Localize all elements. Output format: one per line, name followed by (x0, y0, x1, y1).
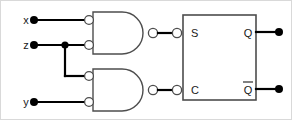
block-port-label-s: S (191, 27, 198, 39)
logic-circuit-svg: x z y (1, 1, 292, 120)
gate-top-input-bubble-x (85, 16, 94, 25)
gate-top (85, 12, 158, 54)
gate-bottom-output-bubble (148, 85, 157, 94)
block-input-bubble-s (172, 28, 181, 37)
terminal-dot-x (30, 16, 38, 24)
input-label-y: y (23, 96, 29, 108)
output-wires (256, 28, 283, 93)
gate-top-output-bubble (148, 28, 157, 37)
input-terminals (30, 16, 69, 106)
gate-bottom-input-bubble-y (85, 98, 94, 107)
junction-dot-z-fanout (61, 41, 68, 48)
block-input-bubbles (172, 28, 181, 94)
terminal-dot-qbar (275, 85, 283, 93)
block-port-label-c: C (191, 84, 199, 96)
gate-top-body (93, 12, 143, 54)
input-label-z: z (23, 39, 29, 51)
block-input-bubble-c (172, 85, 181, 94)
terminal-dot-y (30, 98, 38, 106)
block-port-label-qbar: Q (244, 84, 253, 96)
block-port-label-q: Q (244, 27, 253, 39)
circuit-diagram-canvas: x z y (0, 0, 292, 120)
terminal-dot-z (30, 41, 38, 49)
gate-bottom-body (93, 69, 143, 111)
input-labels: x z y (23, 14, 29, 108)
gate-top-input-bubble-z (85, 41, 94, 50)
input-wires (34, 20, 85, 102)
input-label-x: x (23, 14, 29, 26)
gate-bottom-input-bubble-z (85, 72, 94, 81)
latch-block: S C Q Q (183, 15, 256, 100)
terminal-dot-q (275, 28, 283, 36)
gate-bottom (85, 69, 158, 111)
gate-output-wires (158, 33, 172, 90)
